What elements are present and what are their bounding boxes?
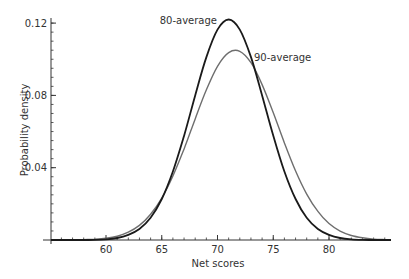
x-tick-label: 70 [211, 244, 224, 255]
series-lines: 90-average80-average [51, 15, 391, 240]
series-label-80-average: 80-average [160, 15, 217, 26]
density-chart: 0.040.080.12 6065707580 90-average80-ave… [0, 0, 409, 279]
y-axis-title: Probability density [19, 84, 30, 177]
series-label-90-average: 90-average [254, 52, 311, 63]
series-line-80-average [51, 20, 391, 241]
series-line-90-average [51, 50, 391, 240]
x-axis-title: Net scores [192, 258, 245, 269]
x-tick-label: 80 [323, 244, 336, 255]
x-tick-label: 75 [267, 244, 280, 255]
x-tick-label: 65 [155, 244, 168, 255]
y-tick-label: 0.12 [25, 18, 47, 29]
x-tick-label: 60 [100, 244, 113, 255]
